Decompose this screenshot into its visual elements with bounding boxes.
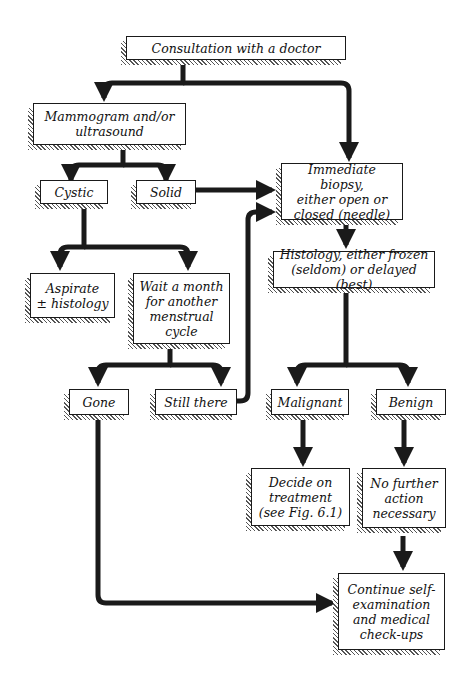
- node-biopsy: Immediate biopsy, either open or closed …: [281, 163, 403, 220]
- node-still-there: Still there: [155, 389, 237, 415]
- node-mammogram: Mammogram and/or ultrasound: [33, 103, 186, 145]
- node-label: Cystic: [54, 185, 93, 200]
- node-label: Aspirate ± histology: [36, 281, 108, 311]
- node-label: Wait a month for another menstrual cycle: [139, 279, 223, 339]
- flowchart-canvas: Consultation with a doctor Mammogram and…: [0, 0, 474, 694]
- node-label: Decide on treatment (see Fig. 6.1): [259, 475, 342, 520]
- edge-mammogram-cystic: [71, 145, 123, 180]
- node-continue: Continue self- examination and medical c…: [338, 573, 445, 650]
- edge-histology-benign: [346, 365, 408, 383]
- node-label: Benign: [389, 395, 434, 410]
- node-label: Histology, either frozen (seldom) or del…: [278, 247, 430, 292]
- node-label: Continue self- examination and medical c…: [348, 582, 436, 642]
- node-gone: Gone: [69, 389, 129, 415]
- node-solid: Solid: [136, 180, 196, 204]
- node-decide: Decide on treatment (see Fig. 6.1): [251, 468, 350, 526]
- node-histology: Histology, either frozen (seldom) or del…: [273, 251, 435, 288]
- node-no-action: No further action necessary: [362, 468, 446, 528]
- edge-consultation-mammogram: [104, 60, 183, 98]
- edge-cystic-wait: [84, 247, 188, 267]
- edge-consultation-biopsy: [183, 83, 349, 158]
- node-benign: Benign: [376, 389, 446, 415]
- node-label: No further action necessary: [370, 476, 438, 521]
- node-malignant: Malignant: [271, 389, 349, 415]
- node-cystic: Cystic: [40, 180, 108, 204]
- edge-wait-gone: [98, 344, 170, 383]
- edge-wait-still-there: [170, 365, 221, 383]
- node-label: Immediate biopsy, either open or closed …: [286, 162, 398, 222]
- node-aspirate: Aspirate ± histology: [30, 273, 115, 318]
- node-label: Gone: [83, 395, 116, 410]
- node-label: Consultation with a doctor: [152, 41, 321, 56]
- node-label: Solid: [150, 185, 182, 200]
- node-label: Still there: [164, 395, 227, 410]
- node-wait: Wait a month for another menstrual cycle: [133, 273, 230, 344]
- edge-still-there-biopsy: [237, 212, 272, 401]
- edge-cystic-aspirate: [60, 202, 84, 267]
- node-label: Malignant: [278, 395, 343, 410]
- node-label: Mammogram and/or ultrasound: [45, 109, 175, 139]
- edge-mammogram-solid: [123, 165, 166, 180]
- edge-histology-malignant: [297, 288, 346, 383]
- node-consultation: Consultation with a doctor: [126, 36, 346, 60]
